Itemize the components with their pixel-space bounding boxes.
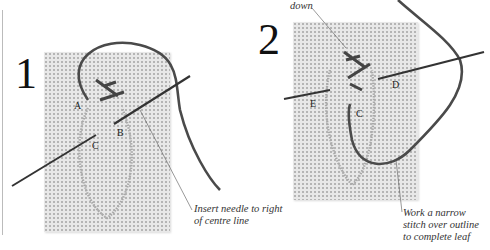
illustration-overlay [0,0,490,250]
leader-line [396,160,402,212]
needle-icon [284,90,330,99]
stitches-icon [344,52,370,90]
leader-line [312,8,346,48]
stitches-icon [96,80,124,100]
thread-icon [79,43,220,190]
leaf-outline-icon [79,108,131,218]
thread-icon [349,0,462,164]
needle-icon [378,52,484,79]
needle-icon [12,135,96,186]
